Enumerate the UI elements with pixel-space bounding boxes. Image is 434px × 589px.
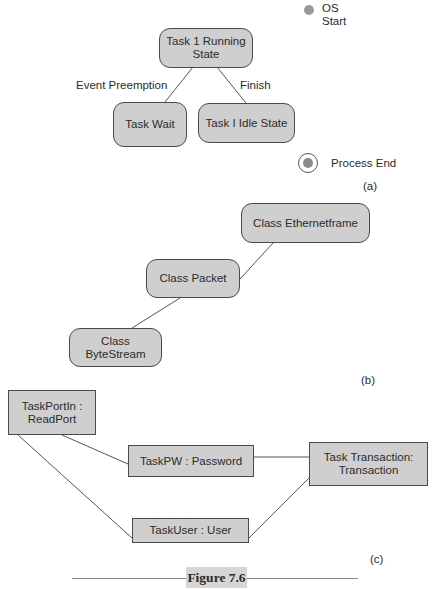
node-text: Task Transaction: [324, 451, 413, 464]
node-task-idle: Task I Idle State [198, 103, 295, 143]
start-label-line1: OS [322, 2, 346, 15]
node-taskuser: TaskUser : User [132, 518, 249, 543]
start-label-line2: Start [322, 15, 346, 28]
node-text: TaskPortIn : [22, 400, 83, 413]
node-text: Class Ethernetframe [253, 217, 358, 230]
end-label: Process End [331, 157, 396, 170]
panel-tag-b: (b) [361, 374, 375, 387]
panel-tag-c: (c) [370, 553, 383, 566]
node-taskpw: TaskPW : Password [128, 445, 254, 477]
node-text: Class ByteStream [70, 335, 161, 361]
edge-label-finish: Finish [240, 79, 271, 92]
node-class-bytestream: Class ByteStream [69, 328, 162, 367]
caption-rule-right [247, 578, 358, 579]
node-text: TaskPW : Password [140, 455, 242, 468]
start-node-icon [304, 5, 314, 15]
node-text: Class Packet [159, 272, 226, 285]
node-taskportin: TaskPortIn : ReadPort [8, 390, 96, 435]
node-text: Task 1 Running [166, 35, 245, 48]
node-task-transaction: Task Transaction: Transaction [309, 442, 428, 486]
node-text: Task Wait [125, 118, 174, 131]
figure-caption: Figure 7.6 [186, 567, 247, 588]
node-task-wait: Task Wait [113, 102, 187, 147]
node-task-running: Task 1 Running State [159, 28, 253, 68]
node-class-ethernetframe: Class Ethernetframe [241, 203, 370, 243]
end-node-icon [298, 153, 318, 173]
caption-rule-left [72, 578, 186, 579]
panel-tag-a: (a) [363, 180, 377, 193]
edge-label-event-preemption: Event Preemption [76, 79, 167, 92]
node-text: TaskUser : User [150, 524, 232, 537]
node-text: State [166, 48, 245, 61]
node-text: Transaction [324, 464, 413, 477]
start-label: OS Start [322, 2, 346, 28]
node-class-packet: Class Packet [146, 259, 240, 298]
node-text: ReadPort [22, 413, 83, 426]
node-text: Task I Idle State [206, 117, 288, 130]
end-node-inner [303, 158, 313, 168]
